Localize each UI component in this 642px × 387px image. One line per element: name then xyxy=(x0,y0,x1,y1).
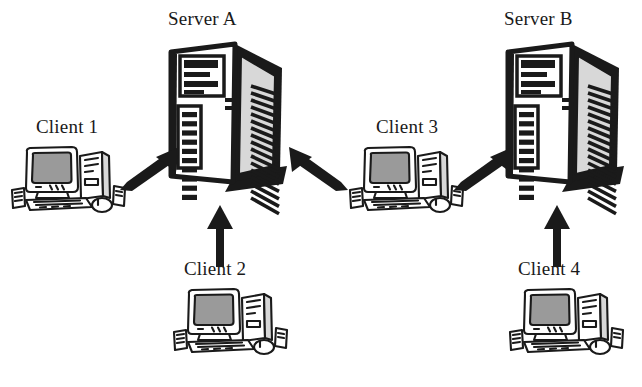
workstation-icon-client-2 xyxy=(172,282,290,362)
node-label-server-b: Server B xyxy=(504,8,573,30)
workstation-icon-client-3 xyxy=(348,140,466,220)
node-label-client-1: Client 1 xyxy=(36,116,98,138)
node-label-server-a: Server A xyxy=(168,8,237,30)
arrow-client2-to-server-a xyxy=(205,205,235,267)
node-label-client-3: Client 3 xyxy=(376,116,438,138)
arrow-client3-to-server-b xyxy=(452,146,514,192)
workstation-icon-client-4 xyxy=(508,282,626,362)
arrow-client3-to-server-a xyxy=(288,146,350,192)
server-tower-icon-server-a xyxy=(163,34,287,204)
network-diagram-canvas: Server A Server B Client 1 Client 2 Clie… xyxy=(0,0,642,387)
workstation-icon-client-1 xyxy=(10,140,128,220)
server-tower-icon-server-b xyxy=(500,34,624,204)
arrow-client4-to-server-b xyxy=(542,205,572,267)
arrow-client1-to-server-a xyxy=(118,146,180,192)
